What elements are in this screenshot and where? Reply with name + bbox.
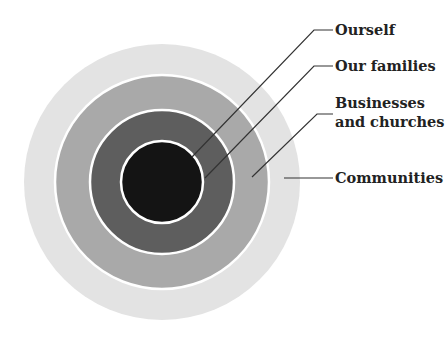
label-businesses-line2: and churches [335, 113, 444, 130]
label-communities: Communities [335, 169, 443, 186]
ring-ourself [121, 141, 203, 223]
label-ourself: Ourself [335, 21, 397, 38]
label-our-families: Our families [335, 57, 436, 74]
label-businesses-line1: Businesses [335, 94, 425, 111]
concentric-circles-diagram: Ourself Our families Businesses and chur… [0, 0, 447, 339]
